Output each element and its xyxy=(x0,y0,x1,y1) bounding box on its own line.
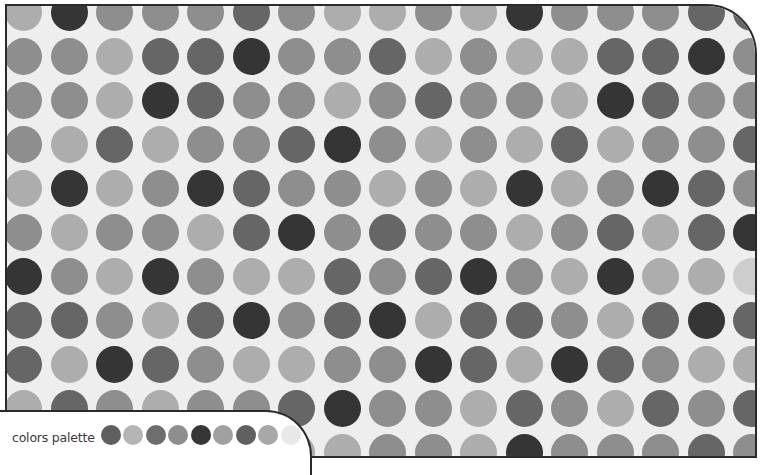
pattern-dot xyxy=(460,434,497,458)
pattern-dot xyxy=(642,434,679,458)
pattern-dot xyxy=(551,214,588,251)
pattern-dot xyxy=(369,258,406,295)
pattern-dot xyxy=(506,126,543,163)
pattern-dot xyxy=(324,390,361,427)
pattern-dot xyxy=(142,170,179,207)
pattern-dot xyxy=(324,346,361,383)
pattern-dot xyxy=(551,170,588,207)
pattern-dot xyxy=(51,4,88,31)
pattern-dot xyxy=(5,126,42,163)
pattern-dot xyxy=(278,82,315,119)
pattern-dot xyxy=(415,82,452,119)
pattern-dot xyxy=(51,346,88,383)
pattern-dot xyxy=(51,82,88,119)
pattern-dot xyxy=(597,390,634,427)
pattern-dot xyxy=(233,258,270,295)
pattern-dot xyxy=(597,302,634,339)
pattern-dot xyxy=(506,38,543,75)
pattern-dot xyxy=(460,214,497,251)
pattern-dot xyxy=(688,434,725,458)
pattern-dot xyxy=(597,126,634,163)
pattern-dot xyxy=(233,302,270,339)
pattern-dot xyxy=(369,346,406,383)
pattern-dot xyxy=(233,170,270,207)
palette-swatch xyxy=(236,425,256,445)
pattern-dot xyxy=(324,434,361,458)
pattern-dot xyxy=(415,258,452,295)
pattern-dot xyxy=(733,258,757,295)
pattern-dot xyxy=(278,126,315,163)
pattern-dot xyxy=(688,302,725,339)
pattern-dot xyxy=(506,302,543,339)
pattern-dot xyxy=(597,258,634,295)
pattern-dot xyxy=(597,38,634,75)
pattern-dot xyxy=(233,346,270,383)
pattern-dot xyxy=(688,38,725,75)
palette-swatch xyxy=(101,425,121,445)
pattern-dot xyxy=(233,214,270,251)
pattern-dot xyxy=(460,126,497,163)
pattern-dot xyxy=(688,346,725,383)
pattern-dot xyxy=(278,4,315,31)
pattern-dot xyxy=(187,258,224,295)
palette-swatch xyxy=(281,425,301,445)
pattern-dot xyxy=(96,4,133,31)
pattern-dot xyxy=(324,214,361,251)
pattern-dot xyxy=(733,302,757,339)
palette-swatch xyxy=(258,425,278,445)
palette-swatch xyxy=(191,425,211,445)
pattern-dot xyxy=(733,434,757,458)
pattern-dot xyxy=(233,38,270,75)
pattern-dot xyxy=(506,82,543,119)
palette-swatches xyxy=(101,425,304,449)
pattern-dot xyxy=(278,214,315,251)
pattern-dot xyxy=(551,302,588,339)
palette-label: colors palette xyxy=(12,430,95,445)
pattern-dot xyxy=(551,38,588,75)
pattern-dot xyxy=(324,82,361,119)
palette-swatch xyxy=(168,425,188,445)
pattern-dot xyxy=(733,390,757,427)
pattern-dot xyxy=(733,38,757,75)
pattern-dot xyxy=(642,4,679,31)
pattern-dot xyxy=(233,82,270,119)
pattern-dot xyxy=(51,170,88,207)
pattern-dot xyxy=(688,170,725,207)
pattern-dot xyxy=(51,38,88,75)
pattern-dot xyxy=(551,126,588,163)
pattern-dot xyxy=(278,258,315,295)
pattern-dot xyxy=(688,258,725,295)
pattern-dot xyxy=(142,346,179,383)
pattern-dot xyxy=(96,346,133,383)
pattern-dot xyxy=(233,126,270,163)
pattern-dot xyxy=(551,346,588,383)
pattern-dot xyxy=(142,82,179,119)
pattern-dot xyxy=(369,126,406,163)
pattern-dot xyxy=(415,4,452,31)
pattern-dot xyxy=(551,390,588,427)
pattern-dot xyxy=(96,214,133,251)
pattern-dot xyxy=(5,346,42,383)
pattern-dot xyxy=(5,82,42,119)
pattern-dot xyxy=(324,126,361,163)
pattern-dot xyxy=(369,434,406,458)
pattern-dot xyxy=(96,38,133,75)
pattern-dot xyxy=(597,346,634,383)
pattern-dot xyxy=(233,4,270,31)
pattern-dot xyxy=(324,4,361,31)
pattern-dot xyxy=(597,4,634,31)
pattern-dot xyxy=(642,390,679,427)
pattern-dot xyxy=(278,170,315,207)
palette-swatch xyxy=(123,425,143,445)
pattern-dot xyxy=(369,4,406,31)
pattern-dot xyxy=(597,82,634,119)
pattern-dot xyxy=(142,214,179,251)
pattern-dot xyxy=(415,346,452,383)
pattern-dot xyxy=(460,346,497,383)
pattern-dot xyxy=(96,302,133,339)
palette-swatch xyxy=(146,425,166,445)
pattern-dot xyxy=(460,4,497,31)
pattern-dot xyxy=(415,126,452,163)
pattern-dot xyxy=(51,214,88,251)
pattern-dot xyxy=(369,302,406,339)
